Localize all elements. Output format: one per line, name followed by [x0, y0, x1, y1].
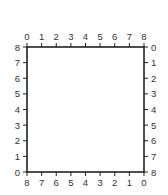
left-tick-label: 4 [15, 104, 20, 115]
right-tick-label: 6 [151, 135, 156, 146]
right-tick-label: 5 [151, 120, 156, 131]
grid-frame-chart: 012345678876543210876543210012345678 [0, 0, 168, 195]
left-tick-label: 8 [15, 42, 20, 53]
bottom-tick-label: 2 [112, 177, 117, 188]
plot-frame [27, 47, 144, 172]
left-tick-label: 1 [15, 151, 20, 162]
bottom-tick-label: 3 [97, 177, 102, 188]
right-tick-label: 0 [151, 42, 156, 53]
left-tick-label: 0 [15, 167, 20, 178]
top-tick-label: 4 [83, 31, 88, 42]
right-tick-label: 1 [151, 57, 156, 68]
bottom-tick-label: 0 [141, 177, 146, 188]
bottom-tick-label: 8 [24, 177, 29, 188]
left-tick-label: 7 [15, 57, 20, 68]
top-tick-label: 8 [141, 31, 146, 42]
right-tick-label: 7 [151, 151, 156, 162]
top-tick-label: 5 [97, 31, 102, 42]
top-tick-label: 2 [54, 31, 59, 42]
bottom-tick-label: 4 [83, 177, 88, 188]
top-tick-label: 7 [127, 31, 132, 42]
bottom-tick-label: 6 [54, 177, 59, 188]
top-tick-label: 6 [112, 31, 117, 42]
right-tick-label: 4 [151, 104, 156, 115]
bottom-tick-label: 1 [127, 177, 132, 188]
bottom-tick-label: 7 [39, 177, 44, 188]
left-tick-label: 2 [15, 135, 20, 146]
right-tick-label: 3 [151, 88, 156, 99]
right-tick-label: 8 [151, 167, 156, 178]
left-tick-label: 5 [15, 88, 20, 99]
bottom-tick-label: 5 [68, 177, 73, 188]
left-tick-label: 3 [15, 120, 20, 131]
top-tick-label: 1 [39, 31, 44, 42]
right-tick-label: 2 [151, 73, 156, 84]
left-tick-label: 6 [15, 73, 20, 84]
top-tick-label: 0 [24, 31, 29, 42]
top-tick-label: 3 [68, 31, 73, 42]
